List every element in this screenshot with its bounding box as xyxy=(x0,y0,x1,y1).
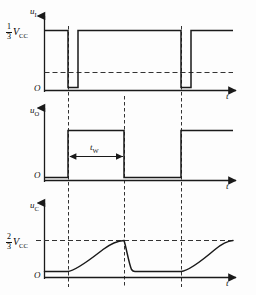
uo-waveform xyxy=(45,131,234,178)
uo-time-axis-label: t xyxy=(226,181,229,191)
uc-signal-label: uC xyxy=(30,200,39,212)
uc-threshold-label: 2 3 VCC xyxy=(6,233,28,251)
panel-ui xyxy=(45,16,237,92)
uc-time-axis-label: t xyxy=(226,278,229,288)
pulse-width-label: tW xyxy=(90,142,99,154)
ui-threshold-label: 1 3 VCC xyxy=(6,23,28,41)
uo-origin-label: O xyxy=(34,170,41,180)
ui-waveform xyxy=(45,31,234,88)
panel-uo xyxy=(45,108,237,182)
ui-time-axis-label: t xyxy=(226,91,229,101)
waveform-figure: uI 1 3 VCC O t uO O tW t uC 2 3 VCC O t xyxy=(0,0,256,295)
uc-waveform xyxy=(45,241,234,272)
ui-signal-label: uI xyxy=(30,6,37,18)
waveform-canvas xyxy=(0,0,256,295)
uc-origin-label: O xyxy=(34,270,41,280)
panel-uc xyxy=(36,203,236,279)
ui-origin-label: O xyxy=(34,83,41,93)
uo-signal-label: uO xyxy=(30,105,39,117)
